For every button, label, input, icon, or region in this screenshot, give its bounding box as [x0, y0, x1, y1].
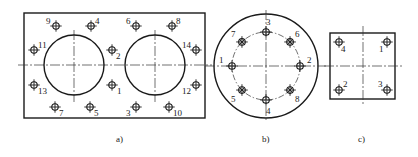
bolt-hole: 1: [219, 55, 238, 72]
panel-b: 36284517 b): [205, 10, 326, 144]
bolt-sequence-number: 4: [341, 44, 346, 54]
panel-b-caption: b): [262, 134, 270, 144]
panel-c-caption: c): [358, 134, 365, 144]
bolt-hole: 8: [284, 84, 300, 104]
bolt-hole: 3: [126, 101, 142, 118]
bolt-hole: 10: [163, 101, 182, 118]
bolt-sequence-number: 5: [94, 108, 99, 118]
bolt-hole: 6: [284, 29, 300, 48]
bolt-sequence-number: 10: [173, 108, 183, 118]
bolt-sequence-number: 3: [126, 108, 131, 118]
bolt-hole: 8: [166, 16, 181, 32]
bolt-hole: 7: [49, 101, 64, 118]
bolt-sequence-number: 3: [266, 17, 271, 27]
bolt-hole: 12: [182, 79, 202, 96]
bolt-hole: 11: [28, 40, 46, 56]
bolt-hole: 1: [379, 36, 393, 54]
bolt-hole: 6: [126, 16, 142, 32]
panel-a-plate: [24, 13, 205, 118]
bolt-hole: 9: [46, 16, 62, 32]
panel-a-caption: a): [116, 134, 123, 144]
bolt-hole: 13: [28, 79, 47, 96]
bolt-hole: 4: [85, 16, 100, 32]
bolt-tightening-sequence-diagram: 9468112141311275310 a) 36284517 b) 4123 …: [0, 0, 418, 157]
panel-a: 9468112141311275310 a): [18, 13, 212, 144]
bolt-sequence-number: 6: [126, 16, 131, 26]
bolt-sequence-number: 7: [231, 29, 236, 39]
bolt-sequence-number: 2: [116, 51, 121, 61]
bolt-hole: 14: [182, 40, 202, 56]
bolt-sequence-number: 8: [176, 16, 181, 26]
bolt-sequence-number: 5: [231, 94, 236, 104]
bolt-sequence-number: 12: [182, 86, 191, 96]
bolt-sequence-number: 2: [307, 55, 312, 65]
bolt-hole: 3: [378, 79, 393, 96]
bolt-hole: 2: [333, 79, 347, 96]
bolt-sequence-number: 2: [343, 79, 348, 89]
bolt-hole: 1: [106, 79, 121, 96]
bolt-hole: 3: [260, 17, 272, 38]
bolt-hole: 5: [231, 84, 248, 104]
bolt-hole: 4: [333, 36, 346, 54]
bolt-sequence-number: 8: [295, 94, 300, 104]
bolt-sequence-number: 3: [378, 79, 383, 89]
bolt-sequence-number: 11: [38, 40, 47, 50]
bolt-hole: 2: [106, 44, 120, 61]
bolt-sequence-number: 6: [295, 29, 300, 39]
bolt-hole: 4: [260, 94, 272, 116]
bolt-sequence-number: 7: [59, 108, 64, 118]
bolt-sequence-number: 1: [117, 86, 122, 96]
bolt-sequence-number: 14: [182, 40, 192, 50]
bolt-sequence-number: 1: [219, 55, 224, 65]
panel-c: 4123 c): [324, 26, 402, 144]
bolt-hole: 2: [294, 55, 311, 72]
bolt-sequence-number: 1: [379, 44, 384, 54]
bolt-sequence-number: 9: [46, 16, 51, 26]
bolt-sequence-number: 4: [266, 106, 271, 116]
bolt-sequence-number: 13: [38, 86, 48, 96]
bolt-hole: 5: [84, 101, 99, 118]
bolt-sequence-number: 4: [95, 16, 100, 26]
